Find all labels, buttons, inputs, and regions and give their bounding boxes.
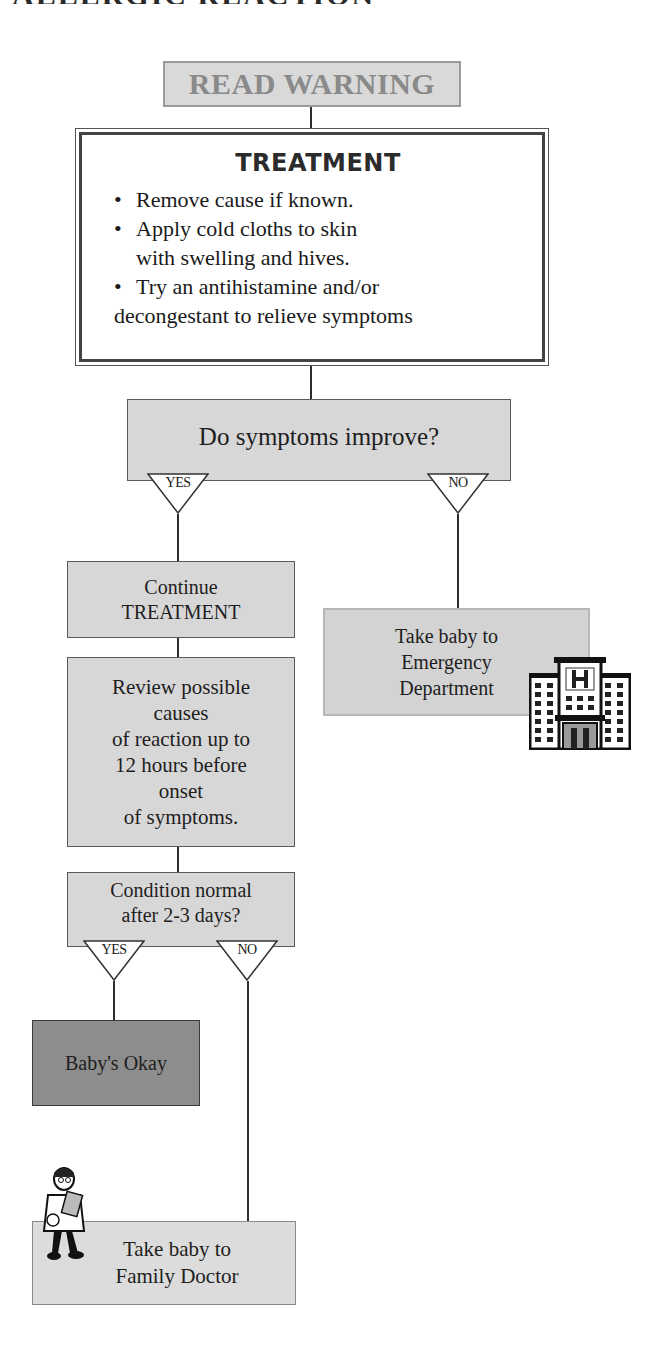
treatment-box: TREATMENT Remove cause if known. Apply c… xyxy=(79,132,545,362)
yes-label: YES xyxy=(83,942,145,958)
box-text: 12 hours before xyxy=(112,752,250,778)
no-label: NO xyxy=(216,942,278,958)
decision-question: Do symptoms improve? xyxy=(199,423,439,451)
box-text: Condition normal xyxy=(110,878,252,903)
decision-condition-normal: Condition normal after 2-3 days? xyxy=(67,872,295,947)
box-text: Family Doctor xyxy=(115,1263,238,1290)
review-causes-box: Review possible causes of reaction up to… xyxy=(67,657,295,847)
no-branch-marker: NO xyxy=(427,473,489,514)
box-text: onset xyxy=(112,778,250,804)
yes-label: YES xyxy=(147,475,209,491)
connector-line xyxy=(177,514,179,562)
box-text: causes xyxy=(112,700,250,726)
no-label: NO xyxy=(427,475,489,491)
treatment-step: Try an antihistamine and/or decongestant… xyxy=(114,272,522,330)
connector-line xyxy=(177,638,179,658)
treatment-step: Apply cold cloths to skin with swelling … xyxy=(114,214,522,272)
step-text: Apply cold cloths to skin xyxy=(136,216,357,241)
yes-branch-marker: YES xyxy=(83,940,145,981)
box-text: Continue xyxy=(122,575,241,600)
box-text: Take baby to xyxy=(115,1236,238,1263)
step-text: with swelling and hives. xyxy=(136,245,350,270)
page-title: ALLERGIC REACTION xyxy=(12,0,375,4)
box-text: TREATMENT xyxy=(122,600,241,625)
no-branch-marker: NO xyxy=(216,940,278,981)
step-text: decongestant to relieve symptoms xyxy=(114,303,413,328)
step-text: Try an antihistamine and/or xyxy=(136,274,379,299)
continue-treatment-box: Continue TREATMENT xyxy=(67,561,295,638)
connector-line xyxy=(113,981,115,1021)
treatment-title: TREATMENT xyxy=(114,149,522,177)
doctor-icon xyxy=(38,1165,90,1261)
box-text: Baby's Okay xyxy=(65,1052,167,1075)
box-text: of reaction up to xyxy=(112,726,250,752)
decision-symptoms-improve: Do symptoms improve? xyxy=(127,399,511,481)
connector-line xyxy=(247,981,249,1222)
read-warning-label: READ WARNING xyxy=(189,67,435,101)
connector-line xyxy=(310,107,312,129)
connector-line xyxy=(457,514,459,609)
read-warning-box: READ WARNING xyxy=(163,61,461,107)
connector-line xyxy=(177,847,179,873)
treatment-step: Remove cause if known. xyxy=(114,185,522,214)
box-text: Department xyxy=(395,675,498,701)
box-text: Review possible xyxy=(112,674,250,700)
babys-okay-box: Baby's Okay xyxy=(32,1020,200,1106)
connector-line xyxy=(310,366,312,400)
step-text: Remove cause if known. xyxy=(136,187,354,212)
box-text: of symptoms. xyxy=(112,804,250,830)
page-title-cropped: ALLERGIC REACTION xyxy=(0,0,664,4)
box-text: after 2-3 days? xyxy=(110,903,252,928)
box-text: Take baby to xyxy=(395,623,498,649)
yes-branch-marker: YES xyxy=(147,473,209,514)
treatment-steps: Remove cause if known. Apply cold cloths… xyxy=(114,185,522,330)
hospital-icon xyxy=(529,656,631,750)
box-text: Emergency xyxy=(395,649,498,675)
